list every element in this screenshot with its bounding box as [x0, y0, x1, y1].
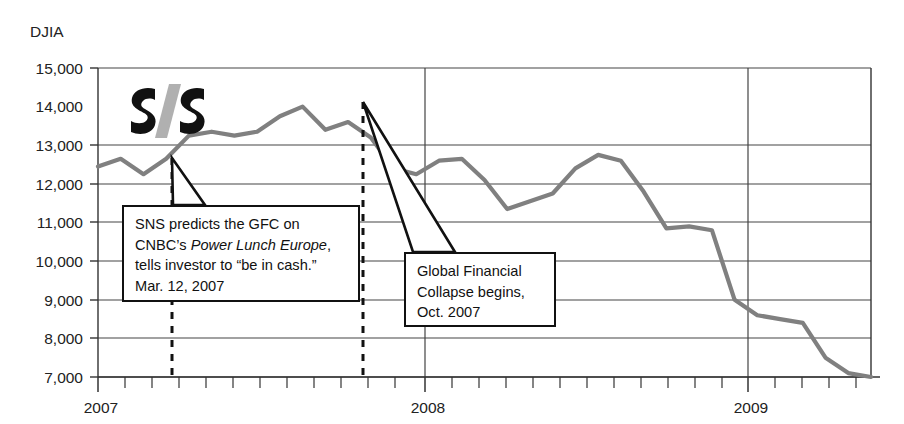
y-tick-marks [90, 68, 98, 377]
callout-global-collapse: Global Financial Collapse begins, Oct. 2… [404, 252, 556, 327]
callout-1-line-4: Mar. 12, 2007 [135, 276, 348, 297]
callout-1-line-3: tells investor to “be in cash.” [135, 255, 348, 276]
y-tick-label: 7,000 [44, 369, 83, 386]
callout-1-line-2: CNBC’s Power Lunch Europe, [135, 235, 348, 256]
callout-2-line-2: Collapse begins, [417, 282, 544, 303]
y-axis-labels: 15,000 14,000 13,000 12,000 11,000 10,00… [36, 60, 84, 386]
sns-logo-letter-right [180, 88, 205, 134]
callout-1-line-2-italic: Power Lunch Europe [191, 237, 327, 253]
sns-logo-letter-left [131, 88, 156, 134]
y-tick-label: 15,000 [36, 60, 84, 77]
y-tick-label: 12,000 [36, 176, 84, 193]
callout-1-line-2-suffix: , [327, 237, 331, 253]
sns-logo [128, 82, 208, 140]
x-major-ticks [98, 377, 748, 392]
x-axis-labels: 2007 2008 2009 [84, 399, 768, 416]
y-axis-title: DJIA [30, 23, 64, 40]
x-minor-ticks [125, 377, 856, 388]
callout-1-line-2-prefix: CNBC’s [135, 237, 191, 253]
y-tick-label: 14,000 [36, 98, 84, 115]
x-tick-label: 2009 [734, 399, 768, 416]
y-tick-label: 11,000 [37, 214, 84, 231]
x-tick-label: 2007 [84, 399, 118, 416]
callout-2-line-3: Oct. 2007 [417, 302, 544, 323]
y-tick-label: 9,000 [44, 292, 83, 309]
callout-2-line-1: Global Financial [417, 261, 544, 282]
callout-sns-prediction: SNS predicts the GFC on CNBC’s Power Lun… [122, 205, 360, 302]
y-tick-label: 10,000 [36, 253, 84, 270]
x-tick-label: 2008 [411, 399, 445, 416]
callout-1-leader [172, 158, 205, 205]
y-tick-label: 13,000 [36, 137, 84, 154]
chart-root: DJIA [0, 0, 904, 424]
callout-1-line-1: SNS predicts the GFC on [135, 214, 348, 235]
sns-logo-slash [155, 84, 181, 138]
callout-2-leader [363, 102, 455, 252]
y-tick-label: 8,000 [44, 330, 83, 347]
